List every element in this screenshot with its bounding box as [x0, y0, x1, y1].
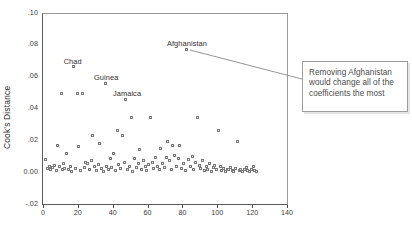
data-point: [154, 156, 157, 159]
data-point: [135, 166, 138, 169]
x-tick-label: 20: [66, 209, 90, 216]
data-point: [252, 165, 255, 168]
y-tick-text: 0.00: [24, 168, 38, 175]
data-point: [210, 170, 213, 173]
data-point: [138, 148, 141, 151]
data-point: [95, 169, 98, 172]
data-point: [44, 158, 47, 161]
x-tick-mark: [148, 205, 149, 208]
x-tick-mark: [182, 205, 183, 208]
callout-box: Removing Afghanistan would change all of…: [302, 61, 408, 112]
scatter-chart: Cook's Distance .10.08.06.04.020.00-.02 …: [0, 0, 300, 236]
data-point: [116, 129, 119, 132]
data-point: [86, 162, 89, 165]
data-point-highlighted: [124, 98, 127, 101]
data-point: [77, 145, 80, 148]
data-point: [83, 166, 86, 169]
data-point: [232, 170, 235, 173]
data-point: [65, 152, 68, 155]
data-point: [213, 164, 216, 167]
data-point: [201, 159, 204, 162]
data-point: [208, 162, 211, 165]
x-tick-mark: [287, 205, 288, 208]
data-point: [217, 129, 220, 132]
y-tick-label: .06: [0, 72, 38, 82]
point-label-guinea: Guinea: [94, 74, 118, 81]
data-point: [126, 168, 129, 171]
x-tick-mark: [78, 205, 79, 208]
data-point: [177, 157, 180, 160]
data-point: [133, 157, 136, 160]
x-tick-label: 120: [240, 209, 264, 216]
data-point: [119, 167, 122, 170]
callout-text: Removing Afghanistan would change all of…: [309, 68, 405, 99]
data-point: [70, 170, 73, 173]
data-point: [215, 168, 218, 171]
data-point: [149, 116, 152, 119]
data-point: [159, 147, 162, 150]
y-tick-text: .02: [28, 136, 38, 143]
data-point: [98, 142, 101, 145]
data-point: [161, 162, 164, 165]
data-point: [182, 162, 185, 165]
data-point: [236, 140, 239, 143]
x-tick-label: 60: [136, 209, 160, 216]
data-point: [130, 116, 133, 119]
data-point: [117, 163, 120, 166]
data-point: [163, 166, 166, 169]
point-label-afghanistan: Afghanistan: [167, 40, 207, 47]
data-point: [128, 165, 131, 168]
x-tick-mark: [113, 205, 114, 208]
data-point: [62, 162, 65, 165]
data-point: [74, 167, 77, 170]
y-tick-text: -.02: [25, 200, 38, 207]
data-point: [184, 169, 187, 172]
y-tick-label: -.02: [0, 200, 38, 210]
data-point: [175, 165, 178, 168]
data-point: [156, 165, 159, 168]
y-tick-text: .08: [28, 40, 38, 47]
data-point: [102, 170, 105, 173]
data-point: [131, 170, 134, 173]
data-point: [171, 144, 174, 147]
data-point: [69, 165, 72, 168]
data-point: [178, 144, 181, 147]
y-tick-text: .10: [28, 9, 38, 16]
point-label-jamaica: Jamaica: [113, 90, 141, 97]
data-point: [91, 134, 94, 137]
data-point: [55, 169, 58, 172]
x-tick-mark: [43, 205, 44, 208]
plot-area: ChadGuineaJamaicaAfghanistan: [42, 13, 288, 205]
data-point: [90, 159, 93, 162]
data-point: [137, 162, 140, 165]
data-point: [109, 157, 112, 160]
x-tick-label: 40: [101, 209, 125, 216]
data-point: [168, 159, 171, 162]
data-point: [114, 169, 117, 172]
data-point: [192, 168, 195, 171]
data-point: [88, 168, 91, 171]
data-point: [79, 169, 82, 172]
data-point: [196, 116, 199, 119]
x-tick-label: 100: [205, 209, 229, 216]
cooks-distance-figure: Cook's Distance .10.08.06.04.020.00-.02 …: [0, 0, 412, 236]
data-point: [191, 155, 194, 158]
x-tick-label: 140: [275, 209, 299, 216]
y-tick-label: .04: [0, 104, 38, 114]
data-point: [81, 92, 84, 95]
data-point: [145, 169, 148, 172]
data-point: [112, 152, 115, 155]
data-point: [105, 165, 108, 168]
data-point: [166, 140, 169, 143]
x-tick-mark: [252, 205, 253, 208]
y-tick-label: 0.00: [0, 168, 38, 178]
data-point: [142, 159, 145, 162]
x-tick-label: 80: [170, 209, 194, 216]
data-point-highlighted: [104, 82, 107, 85]
data-point: [60, 92, 63, 95]
y-tick-text: .06: [28, 72, 38, 79]
data-point: [121, 134, 124, 137]
point-label-chad: Chad: [64, 58, 82, 65]
y-tick-label: .02: [0, 136, 38, 146]
data-point: [151, 161, 154, 164]
